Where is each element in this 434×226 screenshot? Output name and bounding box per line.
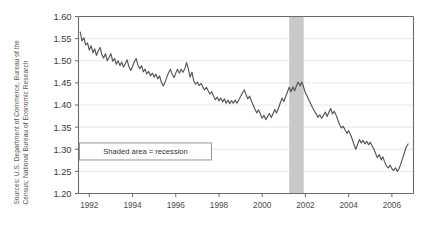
legend-box: Shaded area = recession <box>80 143 212 160</box>
x-tick-label: 2004 <box>340 201 359 210</box>
recession-band <box>289 17 303 194</box>
x-tick-label: 2002 <box>296 201 315 210</box>
y-tick-label: 1.55 <box>53 34 71 44</box>
y-tick-label: 1.60 <box>53 12 71 22</box>
y-tick-label: 1.30 <box>53 145 71 155</box>
legend-label: Shaded area = recession <box>103 147 188 156</box>
chart-plot: 1.201.251.301.351.401.451.501.551.60 199… <box>0 0 434 226</box>
x-tick-label: 1998 <box>210 201 229 210</box>
x-tick-label: 1994 <box>123 201 142 210</box>
y-tick-label: 1.35 <box>53 123 71 133</box>
x-axis-ticks: 19921994199619982000200220042006 <box>80 194 401 210</box>
x-tick-label: 2000 <box>253 201 272 210</box>
x-tick-label: 1996 <box>167 201 186 210</box>
y-axis-ticks: 1.201.251.301.351.401.451.501.551.60 <box>53 12 78 199</box>
y-tick-label: 1.40 <box>53 100 71 110</box>
x-tick-label: 2006 <box>383 201 402 210</box>
y-tick-label: 1.25 <box>53 167 71 177</box>
y-tick-label: 1.20 <box>53 189 71 199</box>
x-tick-label: 1992 <box>80 201 99 210</box>
recession-shaded-band <box>289 17 303 194</box>
chart-figure: Sources: U.S. Department of Commerce, Bu… <box>0 0 434 226</box>
y-tick-label: 1.50 <box>53 56 71 66</box>
y-tick-label: 1.45 <box>53 78 71 88</box>
